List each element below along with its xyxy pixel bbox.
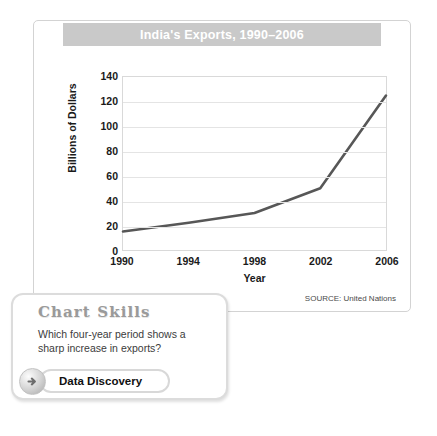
gridline	[123, 177, 386, 178]
data-discovery-label: Data Discovery	[59, 375, 142, 387]
chart-skills-question: Which four-year period shows a sharp inc…	[38, 327, 206, 355]
x-axis-tick-label: 1990	[110, 255, 133, 267]
exports-line-series	[123, 96, 386, 232]
chart-panel: India's Exports, 1990–2006 Billions of D…	[33, 20, 411, 312]
gridline	[123, 227, 386, 228]
data-discovery-row: Data Discovery	[19, 367, 224, 395]
gridline	[123, 102, 386, 103]
x-axis-tick-label: 1994	[177, 255, 200, 267]
x-axis-title: Year	[122, 272, 387, 284]
x-axis-tick-label: 2002	[309, 255, 332, 267]
plot-area	[122, 76, 387, 251]
x-axis-tick-label: 1998	[243, 255, 266, 267]
arrow-right-circle-icon[interactable]	[19, 368, 46, 395]
y-axis-tick-label: 120	[82, 95, 118, 107]
gridline	[123, 127, 386, 128]
y-axis-tick-label: 140	[82, 70, 118, 82]
source-note: SOURCE: United Nations	[305, 294, 396, 303]
y-axis-tick-labels: 140120100806040200	[82, 76, 118, 251]
y-axis-tick-label: 100	[82, 120, 118, 132]
data-discovery-button[interactable]: Data Discovery	[39, 369, 170, 393]
chart-title: India's Exports, 1990–2006	[140, 28, 304, 42]
gridline	[123, 152, 386, 153]
chart-skills-heading: Chart Skills	[38, 303, 151, 321]
x-axis-tick-label: 2006	[375, 255, 398, 267]
y-axis-tick-label: 60	[82, 170, 118, 182]
chart-skills-callout: Chart Skills Which four-year period show…	[11, 293, 228, 400]
chart-title-bar: India's Exports, 1990–2006	[63, 23, 381, 46]
y-axis-title: Billions of Dollars	[66, 53, 78, 203]
y-axis-tick-label: 40	[82, 195, 118, 207]
gridline	[123, 202, 386, 203]
plot-wrapper: Billions of Dollars 140120100806040200 1…	[34, 46, 412, 286]
x-axis-tick-labels: 19901994199820022006	[122, 255, 387, 271]
y-axis-tick-label: 20	[82, 220, 118, 232]
y-axis-tick-label: 80	[82, 145, 118, 157]
